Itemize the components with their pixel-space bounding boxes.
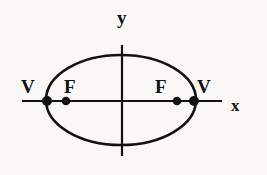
vertex-left-marker	[42, 96, 52, 106]
y-axis-label: y	[117, 8, 127, 27]
focus-left-label: F	[64, 77, 76, 96]
ellipse-diagram-canvas	[0, 0, 267, 175]
ellipse-figure: y x V F F V	[0, 0, 267, 175]
vertex-right-label: V	[197, 77, 211, 96]
focus-left-marker	[62, 97, 71, 106]
vertex-right-marker	[189, 96, 199, 106]
focus-right-label: F	[155, 77, 167, 96]
focus-right-marker	[173, 97, 182, 106]
x-axis-label: x	[231, 97, 240, 114]
vertex-left-label: V	[21, 77, 35, 96]
